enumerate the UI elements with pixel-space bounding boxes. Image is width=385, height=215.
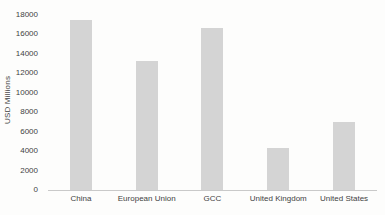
bar-united-states [333,122,355,190]
bar-slot-2 [180,15,246,190]
x-label-united-states: United States [311,194,377,203]
x-label-united-kingdom: United Kingdom [245,194,311,203]
plot-area [48,15,377,191]
bar-slot-4 [311,15,377,190]
x-label-gcc: GCC [180,194,246,203]
bar-slot-1 [114,15,180,190]
y-tick-label: 10000 [16,89,38,97]
y-tick-label: 8000 [20,108,38,116]
y-tick-label: 18000 [16,11,38,19]
y-tick-label: 14000 [16,50,38,58]
y-tick-label: 4000 [20,147,38,155]
y-tick-label: 2000 [20,167,38,175]
x-label-china: China [48,194,114,203]
x-label-european-union: European Union [114,194,180,203]
bar-slot-3 [245,15,311,190]
bar-european-union [136,61,158,190]
y-axis-ticks: 0200040006000800010000120001400016000180… [0,15,42,190]
y-tick-label: 6000 [20,128,38,136]
x-axis-labels: ChinaEuropean UnionGCCUnited KingdomUnit… [48,194,377,203]
y-tick-label: 0 [34,186,38,194]
y-tick-label: 16000 [16,30,38,38]
bar-united-kingdom [267,148,289,190]
bar-slot-0 [48,15,114,190]
bar-gcc [201,28,223,190]
bar-china [70,20,92,190]
bar-chart: USD Millions 020004000600080001000012000… [0,0,385,215]
y-tick-label: 12000 [16,69,38,77]
